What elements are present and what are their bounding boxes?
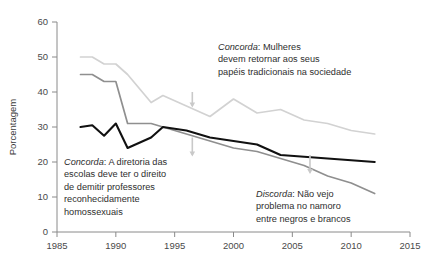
annotation-women: Concorda: Mulheres devem retornar aos se…	[218, 41, 351, 78]
y-tick-label: 40	[37, 86, 48, 97]
x-tick-label: 2005	[282, 240, 303, 251]
y-tick-label: 20	[37, 156, 48, 167]
y-axis-title: Porcentagem	[7, 99, 18, 156]
x-tick-label: 1990	[105, 240, 126, 251]
y-tick-label: 0	[43, 226, 48, 237]
x-tick-label: 1995	[164, 240, 185, 251]
x-tick-label: 2015	[399, 240, 420, 251]
y-tick-label: 10	[37, 191, 48, 202]
annotation-dating: Discorda: Não vejo problema no namoro en…	[256, 188, 351, 225]
line-chart-svg: 0102030405060198519901995200020052010201…	[0, 0, 430, 271]
arrow-to-schools-line	[190, 138, 196, 157]
annotation-women-lead: Concorda	[218, 42, 258, 52]
y-tick-label: 30	[37, 121, 48, 132]
y-tick-label: 60	[37, 16, 48, 27]
x-tick-label: 1985	[46, 240, 67, 251]
x-tick-label: 2000	[223, 240, 244, 251]
arrow-to-women-line	[190, 92, 196, 108]
annotation-dating-lead: Discorda	[256, 189, 292, 199]
annotation-schools-lead: Concorda	[64, 157, 104, 167]
x-tick-label: 2010	[341, 240, 362, 251]
y-tick-label: 50	[37, 51, 48, 62]
chart-container: 0102030405060198519901995200020052010201…	[0, 0, 430, 271]
annotation-schools: Concorda: A diretoria das escolas deve t…	[64, 156, 167, 218]
